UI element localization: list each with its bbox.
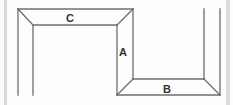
label-a: A xyxy=(119,46,127,58)
label-c: C xyxy=(66,12,74,24)
miter-bottom-left xyxy=(117,79,133,95)
diagram-frame: C A B xyxy=(0,0,233,105)
miter-bottom-right xyxy=(204,79,220,95)
label-b: B xyxy=(163,83,171,95)
molding-diagram: C A B xyxy=(0,0,233,105)
miter-top-right xyxy=(117,9,133,25)
miter-top-left xyxy=(18,9,33,25)
